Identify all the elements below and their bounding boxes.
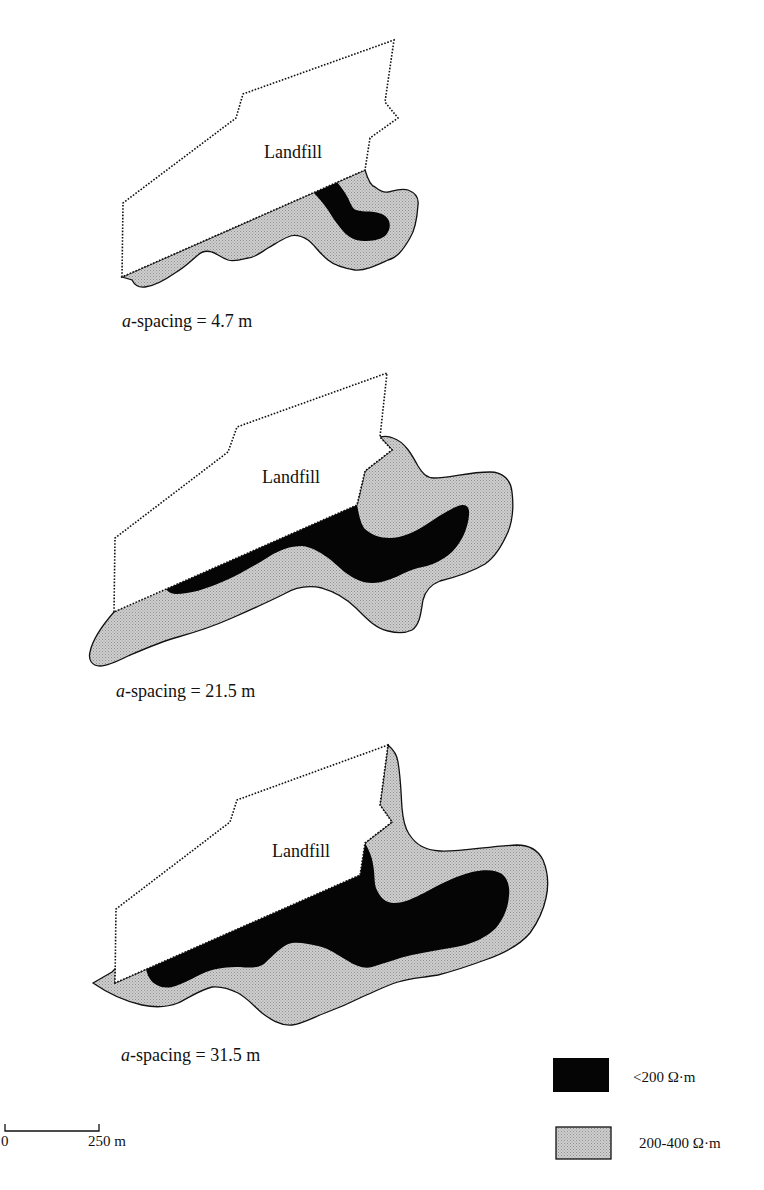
panel-1-landfill-label: Landfill — [264, 142, 322, 162]
scale-bar-end-label: 250 m — [88, 1133, 126, 1149]
scale-bar-start-label: 0 — [1, 1133, 9, 1149]
panel-3-caption: a-spacing = 31.5 m — [121, 1045, 260, 1065]
legend-label-below-200: <200 Ω·m — [633, 1069, 696, 1085]
panel-1-caption-italic: a — [122, 311, 131, 331]
scale-bar: 0 250 m — [1, 1124, 126, 1149]
legend-swatch-below-200 — [553, 1058, 609, 1092]
panel-1-caption: a-spacing = 4.7 m — [122, 311, 252, 331]
legend: <200 Ω·m 200-400 Ω·m — [553, 1058, 721, 1159]
panel-3-caption-italic: a — [121, 1045, 130, 1065]
panel-2-caption-italic: a — [116, 681, 125, 701]
panel-2-caption: a-spacing = 21.5 m — [116, 681, 255, 701]
panel-3-caption-text: -spacing = 31.5 m — [130, 1045, 260, 1065]
panel-1-map: Landfill a-spacing = 4.7 m — [122, 40, 418, 331]
panel-2-landfill-label: Landfill — [262, 467, 320, 487]
panel-1-caption-text: -spacing = 4.7 m — [131, 311, 252, 331]
panel-2-caption-text: -spacing = 21.5 m — [125, 681, 255, 701]
scale-bar-line — [5, 1124, 99, 1131]
panel-3-map: Landfill a-spacing = 31.5 m — [93, 745, 548, 1065]
panel-3-landfill-label: Landfill — [272, 841, 330, 861]
resistivity-map-figure: Landfill a-spacing = 4.7 m Landfill a-sp… — [0, 0, 764, 1190]
legend-swatch-200-400 — [556, 1127, 611, 1159]
legend-label-200-400: 200-400 Ω·m — [639, 1135, 721, 1151]
panel-2-map: Landfill a-spacing = 21.5 m — [89, 373, 512, 701]
